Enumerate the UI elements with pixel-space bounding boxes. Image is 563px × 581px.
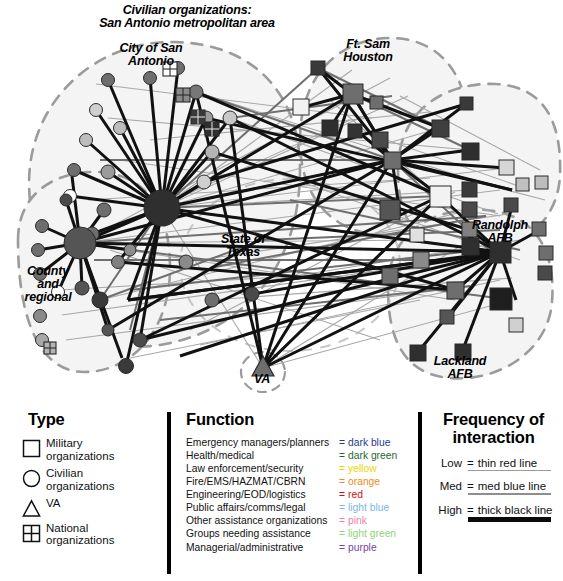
equals-sign: = xyxy=(303,541,348,554)
frequency-description: thin red line xyxy=(478,457,537,469)
diagram-title: Civilian organizations: San Antonio metr… xyxy=(62,4,312,30)
function-color-name: dark green xyxy=(348,449,412,462)
legend-function-item: Emergency managers/planners = dark blue xyxy=(180,436,412,449)
cluster-label-va: VA xyxy=(242,373,282,386)
function-color-name: light blue xyxy=(348,501,412,514)
legend-frequency-item-med: Med = med blue line xyxy=(424,480,563,492)
legend-type-item-military: Military organizations xyxy=(16,437,161,463)
legend-function-item: Health/medical = dark green xyxy=(180,449,412,462)
frequency-description: med blue line xyxy=(478,480,546,492)
function-name: Public affairs/comms/legal xyxy=(186,501,305,514)
square-icon xyxy=(16,437,46,458)
equals-sign: = xyxy=(467,504,474,516)
function-color-name: purple xyxy=(348,541,412,554)
frequency-level: High xyxy=(428,504,467,516)
network-diagram-page: Civilian organizations: San Antonio metr… xyxy=(0,0,563,581)
legend-type-column: Type Military organizations Civilian org… xyxy=(16,410,161,551)
cluster-label-county-and-regional: County and regional xyxy=(8,265,88,303)
legend-frequency-item-high: High = thick black line xyxy=(424,504,563,516)
cluster-label-lackland-afb: Lackland AFB xyxy=(412,355,508,381)
legend-function-item: Other assistance organizations = pink xyxy=(180,514,412,527)
network-graph xyxy=(0,0,563,400)
legend-function-heading: Function xyxy=(186,410,412,429)
cluster-label-randolph-afb: Randolph AFB xyxy=(452,219,548,245)
frequency-description: thick black line xyxy=(478,504,553,516)
equals-sign: = xyxy=(467,457,474,469)
legend-type-item-national: National organizations xyxy=(16,522,161,548)
legend-type-label-va: VA xyxy=(46,497,61,510)
frequency-sample-line-med xyxy=(468,493,551,495)
legend-type-label-military: Military organizations xyxy=(46,437,114,463)
legend-function-item: Public affairs/comms/legal = light blue xyxy=(180,501,412,514)
legend-function-column: Function Emergency managers/planners = d… xyxy=(180,410,412,554)
legend-function-item: Fire/EMS/HAZMAT/CBRN = orange xyxy=(180,475,412,488)
equals-sign: = xyxy=(305,475,348,488)
legend-divider-2 xyxy=(418,412,422,574)
cluster-label-ft-sam-houston: Ft. Sam Houston xyxy=(318,38,418,64)
function-name: Health/medical xyxy=(186,449,254,462)
legend-function-item: Managerial/administrative = purple xyxy=(180,541,412,554)
legend: Type Military organizations Civilian org… xyxy=(0,404,563,581)
function-name: Engineering/EOD/logistics xyxy=(186,488,306,501)
equals-sign: = xyxy=(311,527,348,540)
frequency-sample-line-low xyxy=(468,470,551,471)
legend-function-item: Groups needing assistance = light green xyxy=(180,527,412,540)
legend-frequency-column: Frequency of interaction Low = thin red … xyxy=(424,410,563,531)
function-name: Emergency managers/planners xyxy=(186,436,329,449)
frequency-sample-line-high xyxy=(468,517,551,522)
function-color-name: dark blue xyxy=(348,436,412,449)
function-name: Fire/EMS/HAZMAT/CBRN xyxy=(186,475,305,488)
legend-frequency-heading: Frequency of interaction xyxy=(424,410,563,447)
equals-sign: = xyxy=(327,514,348,527)
legend-divider-1 xyxy=(167,412,171,574)
function-color-name: red xyxy=(348,488,412,501)
equals-sign: = xyxy=(306,488,348,501)
legend-frequency-item-low: Low = thin red line xyxy=(424,457,563,469)
function-color-name: orange xyxy=(348,475,412,488)
legend-type-item-civilian: Civilian organizations xyxy=(16,467,161,493)
triangle-icon xyxy=(16,497,46,518)
legend-type-label-national: National organizations xyxy=(46,522,114,548)
legend-type-item-va: VA xyxy=(16,497,161,518)
frequency-level: Med xyxy=(428,480,467,492)
function-color-name: yellow xyxy=(348,462,412,475)
equals-sign: = xyxy=(305,501,348,514)
equals-sign: = xyxy=(303,462,348,475)
equals-sign: = xyxy=(467,480,474,492)
function-name: Other assistance organizations xyxy=(186,514,327,527)
network-diagram-canvas: Civilian organizations: San Antonio metr… xyxy=(0,0,563,400)
grid-square-icon xyxy=(16,522,46,543)
legend-type-label-civilian: Civilian organizations xyxy=(46,467,114,493)
function-name: Managerial/administrative xyxy=(186,541,303,554)
legend-function-item: Engineering/EOD/logistics = red xyxy=(180,488,412,501)
equals-sign: = xyxy=(329,436,348,449)
function-name: Groups needing assistance xyxy=(186,527,311,540)
function-name: Law enforcement/security xyxy=(186,462,303,475)
circle-icon xyxy=(16,467,46,488)
legend-function-item: Law enforcement/security = yellow xyxy=(180,462,412,475)
cluster-label-city-of-san-antonio: City of San Antonio xyxy=(96,42,206,68)
function-color-name: light green xyxy=(348,527,412,540)
cluster-label-state-of-texas: State of Texas xyxy=(198,233,288,259)
frequency-level: Low xyxy=(428,457,467,469)
equals-sign: = xyxy=(254,449,348,462)
legend-type-heading: Type xyxy=(28,410,161,429)
function-color-name: pink xyxy=(348,514,412,527)
